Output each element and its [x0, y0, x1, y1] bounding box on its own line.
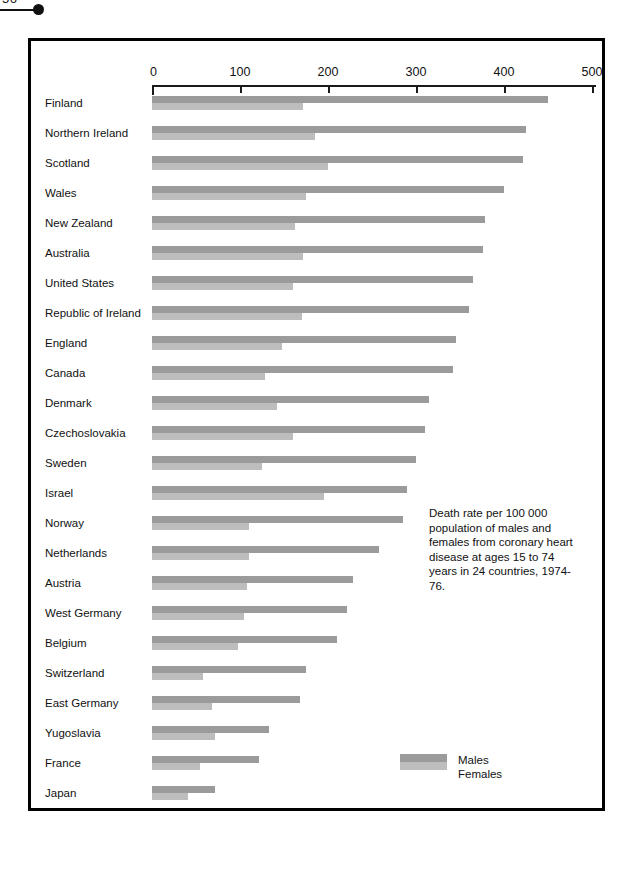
x-axis-tick-label: 0: [150, 65, 157, 79]
bar-females: [152, 313, 302, 320]
bar-males: [152, 96, 548, 103]
bar-females: [152, 523, 249, 530]
bar-females: [152, 133, 315, 140]
bar-row: Belgium: [31, 636, 602, 666]
bar-row: New Zealand: [31, 216, 602, 246]
bar-row-label: New Zealand: [45, 217, 149, 230]
bar-row: East Germany: [31, 696, 602, 726]
bar-row: United States: [31, 276, 602, 306]
bar-females: [152, 193, 306, 200]
bar-row-bars: [152, 546, 379, 560]
bar-row-label: Belgium: [45, 637, 149, 650]
bar-row: Republic of Ireland: [31, 306, 602, 336]
bar-chart: 0100200300400500 FinlandNorthern Ireland…: [31, 41, 602, 808]
bar-males: [152, 276, 473, 283]
x-axis-tick-label: 200: [318, 65, 339, 79]
bar-males: [152, 216, 485, 223]
bar-males: [152, 456, 416, 463]
bar-row: France: [31, 756, 602, 786]
bar-females: [152, 283, 293, 290]
bar-row-label: Israel: [45, 487, 149, 500]
bar-row: Finland: [31, 96, 602, 126]
bar-row-label: England: [45, 337, 149, 350]
bar-row-bars: [152, 516, 403, 530]
bar-row-bars: [152, 156, 523, 170]
bar-row-bars: [152, 336, 456, 350]
bar-row: Denmark: [31, 396, 602, 426]
bar-females: [152, 343, 282, 350]
bar-males: [152, 516, 403, 523]
bar-males: [152, 486, 407, 493]
bar-row-bars: [152, 96, 548, 110]
bar-males: [152, 156, 523, 163]
bar-row-label: Canada: [45, 367, 149, 380]
bar-females: [152, 553, 249, 560]
bar-row-bars: [152, 576, 353, 590]
bar-females: [152, 223, 295, 230]
bar-row-bars: [152, 606, 347, 620]
bar-males: [152, 696, 300, 703]
bar-males: [152, 756, 259, 763]
bar-row-label: Denmark: [45, 397, 149, 410]
x-axis-tick-label: 500: [582, 65, 603, 79]
bar-row: Sweden: [31, 456, 602, 486]
bar-row-label: Czechoslovakia: [45, 427, 149, 440]
bar-row-bars: [152, 396, 429, 410]
bar-males: [152, 246, 483, 253]
bar-row: Australia: [31, 246, 602, 276]
x-axis-tick: [152, 87, 154, 95]
legend-swatches: [400, 754, 447, 770]
bar-row-bars: [152, 426, 425, 440]
bar-females: [152, 403, 277, 410]
bar-row-label: Austria: [45, 577, 149, 590]
bar-row-label: Japan: [45, 787, 149, 800]
bar-row-label: Yugoslavia: [45, 727, 149, 740]
bar-row-bars: [152, 456, 416, 470]
page-number: 56: [2, 0, 17, 6]
bar-row-bars: [152, 126, 526, 140]
x-axis-tick-label: 400: [494, 65, 515, 79]
figure-frame: 0100200300400500 FinlandNorthern Ireland…: [28, 38, 605, 811]
bar-females: [152, 733, 215, 740]
bar-row-bars: [152, 186, 504, 200]
bar-males: [152, 396, 429, 403]
bar-row-bars: [152, 246, 483, 260]
bar-row-label: Netherlands: [45, 547, 149, 560]
bar-row-bars: [152, 786, 215, 800]
bar-males: [152, 666, 306, 673]
bar-females: [152, 373, 265, 380]
bar-females: [152, 493, 324, 500]
bar-row: Northern Ireland: [31, 126, 602, 156]
bar-rows: FinlandNorthern IrelandScotlandWalesNew …: [31, 96, 602, 816]
legend-label-females: Females: [458, 768, 502, 782]
x-axis-tick: [592, 87, 594, 93]
bar-row-bars: [152, 666, 306, 680]
legend-label-males: Males: [458, 754, 502, 768]
bar-row: Yugoslavia: [31, 726, 602, 756]
bar-row-bars: [152, 696, 300, 710]
bar-males: [152, 606, 347, 613]
bar-row-bars: [152, 756, 259, 770]
bar-females: [152, 643, 238, 650]
bar-row: England: [31, 336, 602, 366]
bar-males: [152, 786, 215, 793]
bar-row: Japan: [31, 786, 602, 816]
bar-females: [152, 763, 200, 770]
bar-males: [152, 636, 337, 643]
bar-row: Czechoslovakia: [31, 426, 602, 456]
legend-swatch-males: [400, 754, 447, 762]
bar-males: [152, 726, 269, 733]
bar-females: [152, 433, 293, 440]
bar-males: [152, 426, 425, 433]
x-axis-tick-label: 300: [406, 65, 427, 79]
bar-row-label: West Germany: [45, 607, 149, 620]
bar-row-label: Finland: [45, 97, 149, 110]
bar-row-bars: [152, 276, 473, 290]
bar-row: Scotland: [31, 156, 602, 186]
bar-females: [152, 613, 244, 620]
bar-row: West Germany: [31, 606, 602, 636]
x-axis-tick: [504, 87, 506, 93]
chart-caption: Death rate per 100 000 population of mal…: [429, 506, 581, 594]
bar-females: [152, 703, 212, 710]
bar-row-label: Norway: [45, 517, 149, 530]
